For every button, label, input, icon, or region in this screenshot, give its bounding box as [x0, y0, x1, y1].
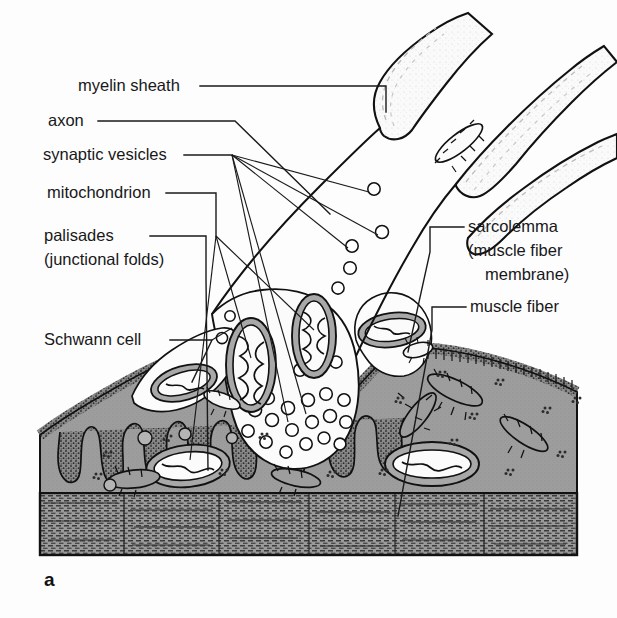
panel-letter: a: [44, 569, 55, 590]
label-sarcolemma-sub2: membrane): [485, 265, 569, 283]
diagram-canvas: myelin sheath axon synaptic vesicles mit…: [0, 0, 617, 618]
mitochondrion-sarcoplasm-right: [385, 442, 479, 486]
label-sarcolemma: sarcolemma: [468, 217, 559, 235]
muscle-fiber-striations: [40, 493, 577, 555]
label-schwann-cell: Schwann cell: [44, 330, 141, 348]
label-mitochondrion: mitochondrion: [47, 183, 151, 201]
label-axon: axon: [48, 111, 84, 129]
label-palisades-sub: (junctional folds): [44, 250, 164, 268]
neuromuscular-junction-figure: myelin sheath axon synaptic vesicles mit…: [0, 0, 617, 618]
mitochondrion-terminal-right: [292, 294, 336, 378]
label-palisades: palisades: [44, 226, 114, 244]
label-sarcolemma-sub1: (muscle fiber: [468, 241, 563, 259]
label-muscle-fiber: muscle fiber: [470, 297, 559, 315]
label-myelin-sheath: myelin sheath: [78, 76, 180, 94]
label-synaptic-vesicles: synaptic vesicles: [43, 145, 167, 163]
